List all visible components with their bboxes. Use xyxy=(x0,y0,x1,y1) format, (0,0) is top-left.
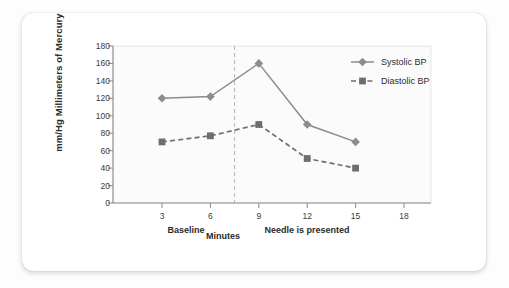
blood-pressure-line-chart: mm/Hg Millimeters of Mercury 180 160 140… xyxy=(22,13,486,271)
x-tick-label: 3 xyxy=(147,212,177,221)
legend-item-systolic: Systolic BP xyxy=(381,58,427,67)
x-tick-label: 18 xyxy=(389,212,419,221)
x-tick-label: 9 xyxy=(244,212,274,221)
x-tick-label: 15 xyxy=(341,212,371,221)
figure-card: mm/Hg Millimeters of Mercury 180 160 140… xyxy=(22,13,486,271)
x-axis-title: Minutes xyxy=(22,231,486,241)
x-tick-label: 12 xyxy=(292,212,322,221)
x-tick-label: 6 xyxy=(195,212,225,221)
legend-item-diastolic: Diastolic BP xyxy=(381,77,430,86)
screenshot-root: mm/Hg Millimeters of Mercury 180 160 140… xyxy=(0,0,509,288)
x-axis-title-text: Minutes xyxy=(206,231,240,241)
